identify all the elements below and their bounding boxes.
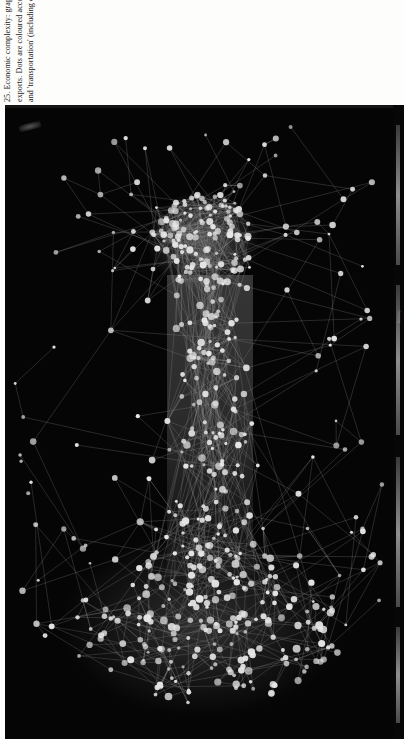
legend-label-machinery: Machinery [398, 297, 401, 337]
figure-caption-text: 25. Economic complexity: graph of the gl… [2, 0, 37, 102]
legend-bar-segment [396, 125, 400, 265]
product-space-network-figure [5, 105, 393, 739]
legend-label-textile: Textile [398, 517, 401, 557]
figure-plate-wrapper: Machinery Textile [5, 105, 404, 739]
network-graph-canvas [5, 105, 393, 739]
scanned-book-page: 25. Economic complexity: graph of the gl… [0, 0, 404, 739]
figure-legend-strip: Machinery Textile [393, 105, 404, 739]
legend-bar-segment [396, 627, 400, 723]
figure-caption-rotated: 25. Economic complexity: graph of the gl… [0, 0, 404, 104]
figure-caption-band: 25. Economic complexity: graph of the gl… [0, 0, 404, 104]
